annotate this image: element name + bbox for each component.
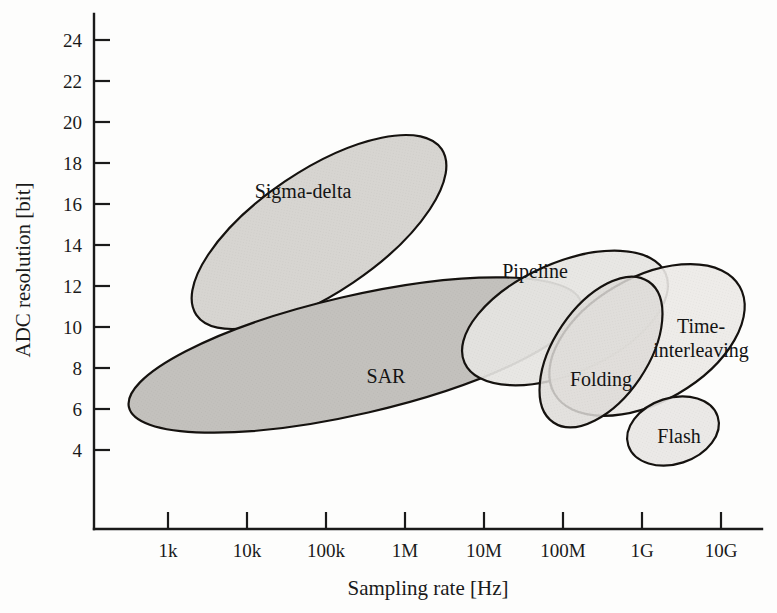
chart-canvas: 24 22 20 18 16 14 12 10 8 6 4 1k 10k 10 [0, 0, 777, 613]
x-tick-label-1M: 1M [392, 540, 419, 561]
adc-architecture-chart: 24 22 20 18 16 14 12 10 8 6 4 1k 10k 10 [0, 0, 777, 613]
x-tick-label-1G: 1G [630, 540, 654, 561]
x-tick-label-10G: 10G [705, 540, 738, 561]
y-tick-label-4: 4 [73, 440, 83, 461]
y-tick-label-24: 24 [63, 30, 83, 51]
y-tick-label-14: 14 [63, 235, 83, 256]
x-tick-label-10k: 10k [233, 540, 262, 561]
y-tick-label-12: 12 [63, 276, 82, 297]
y-tick-label-22: 22 [63, 71, 82, 92]
y-tick-label-6: 6 [73, 399, 83, 420]
region-label-time-interleaving-line2: interleaving [653, 339, 749, 362]
region-label-sar: SAR [367, 365, 407, 387]
x-axis-title: Sampling rate [Hz] [348, 576, 509, 600]
y-tick-label-20: 20 [63, 112, 82, 133]
region-label-folding: Folding [570, 368, 632, 391]
x-tick-label-10M: 10M [466, 540, 502, 561]
x-tick-label-1k: 1k [159, 540, 179, 561]
region-label-flash: Flash [657, 425, 700, 447]
region-label-time-interleaving-line1: Time- [677, 315, 725, 337]
y-tick-label-8: 8 [73, 358, 83, 379]
y-tick-label-16: 16 [63, 194, 82, 215]
y-tick-label-10: 10 [63, 317, 82, 338]
x-tick-label-100k: 100k [307, 540, 346, 561]
region-label-pipeline: Pipeline [502, 260, 568, 283]
x-tick-label-100M: 100M [540, 540, 586, 561]
y-tick-label-18: 18 [63, 153, 82, 174]
y-axis-title: ADC resolution [bit] [11, 183, 35, 358]
region-label-sigma-delta: Sigma-delta [255, 180, 352, 203]
